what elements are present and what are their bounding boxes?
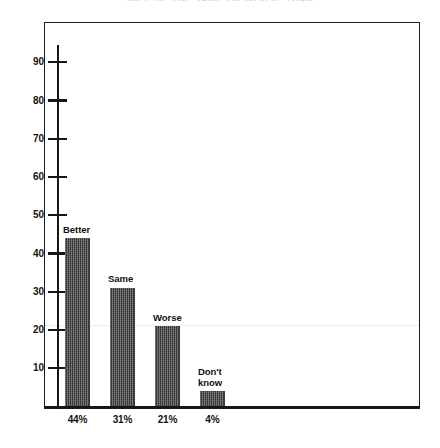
x-axis-tick-label: 44% (58, 414, 98, 425)
bar (110, 288, 135, 407)
gridline-artifact (45, 325, 419, 326)
x-axis-tick-label: 31% (103, 414, 143, 425)
bar (200, 391, 225, 406)
bar-top-label: Don'tknow (198, 367, 222, 388)
y-axis-tick (48, 138, 67, 140)
bar-top-label: Same (108, 274, 133, 285)
y-axis-tick-label: 40 (10, 248, 44, 259)
x-axis-tick-label: 21% (148, 414, 188, 425)
y-axis-tick (48, 61, 67, 63)
y-axis-tick-label: 10 (10, 362, 44, 373)
y-axis-tick (48, 214, 67, 216)
chart-page: WILL BE THE SAME OR WORSE THAN 102030405… (0, 0, 440, 448)
y-axis-tick-label: 60 (10, 171, 44, 182)
y-axis-tick (48, 99, 67, 101)
bar (65, 238, 90, 406)
plot-frame (44, 22, 420, 409)
bar (155, 326, 180, 406)
x-axis-tick-label: 4% (193, 414, 233, 425)
bar-top-label: Better (63, 225, 90, 236)
y-axis-tick-label: 70 (10, 133, 44, 144)
y-axis-tick-label: 20 (10, 324, 44, 335)
bar-top-label: Worse (153, 313, 182, 324)
y-axis-tick-label: 90 (10, 56, 44, 67)
y-axis-tick-label: 80 (10, 95, 44, 106)
y-axis-tick-label: 50 (10, 209, 44, 220)
y-axis-tick (48, 176, 67, 178)
x-axis-line (45, 406, 419, 408)
y-axis-tick-label: 30 (10, 286, 44, 297)
chart-title: WILL BE THE SAME OR WORSE THAN (0, 0, 440, 1)
